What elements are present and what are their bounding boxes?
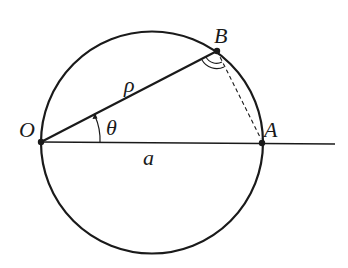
label-b: B bbox=[214, 23, 227, 48]
label-a: A bbox=[262, 117, 278, 142]
label-theta: θ bbox=[106, 115, 117, 140]
angle-b-arc-outer bbox=[202, 60, 224, 69]
point-o-dot bbox=[38, 139, 44, 145]
label-a-length: a bbox=[143, 145, 154, 170]
segment-ba-dashed bbox=[217, 51, 261, 139]
label-rho: ρ bbox=[123, 72, 135, 97]
segment-oa-ray bbox=[41, 142, 335, 144]
theta-angle-arc bbox=[95, 116, 100, 143]
label-o: O bbox=[19, 117, 35, 142]
circle-diagram: O A B ρ θ a bbox=[0, 0, 348, 268]
angle-b-arc-inner bbox=[206, 57, 222, 63]
point-b-dot bbox=[214, 48, 220, 54]
